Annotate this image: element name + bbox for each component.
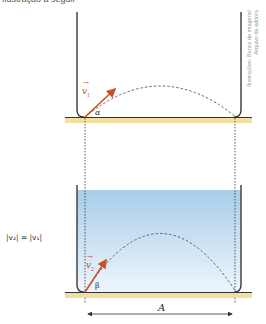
alpha-angle-label: α — [95, 108, 100, 117]
right-wall-top — [234, 12, 241, 117]
v1-label: → v1 — [82, 86, 90, 98]
water — [77, 190, 241, 292]
bottom-panel — [65, 185, 252, 314]
diagram-canvas — [0, 0, 266, 324]
cropped-caption: Ilustração a seguir — [2, 0, 76, 4]
range-label: A — [158, 302, 165, 313]
projectile-diagram: Ilustração a seguir Ilustrações: Banco d… — [0, 0, 266, 324]
image-credit: Ilustrações: Banco de imagens/ Arquivo d… — [246, 10, 266, 106]
left-wall-top — [77, 12, 84, 117]
top-panel — [65, 12, 252, 123]
trajectory-top — [85, 86, 236, 117]
credit-line-2: Arquivo da editora — [253, 10, 260, 106]
velocity-equality: |v₂| = |v₁| — [6, 233, 42, 242]
beta-angle-label: β — [95, 281, 100, 290]
v2-label: → v2 — [86, 260, 94, 272]
